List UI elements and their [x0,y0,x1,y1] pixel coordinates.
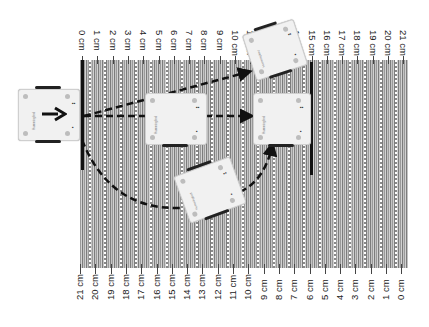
arc-path-end [240,146,272,192]
arc-path [82,140,180,208]
arrow-right-icon [41,106,67,122]
robot-target-straight: ▪▪ ▪ Hummingbird [253,93,311,145]
robot-intermediate: ▪▪ ▪ Hummingbird [145,93,207,145]
robot-start: ▪▪ ▪ Hummingbird [18,89,80,141]
